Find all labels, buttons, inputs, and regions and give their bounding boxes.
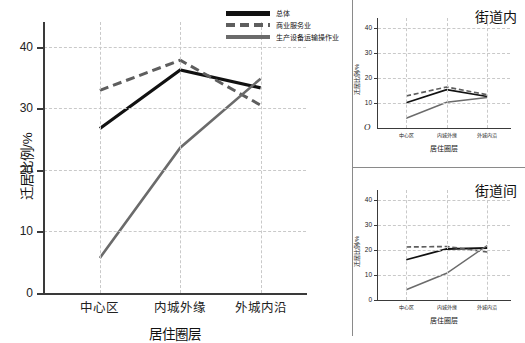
y-axis-tick bbox=[374, 275, 377, 276]
gridline-vertical bbox=[447, 190, 448, 300]
y-axis-tick-label: 20 bbox=[359, 247, 372, 254]
gridline-vertical bbox=[447, 18, 448, 128]
y-axis-tick-label: 30 bbox=[9, 102, 33, 114]
y-axis-tick-label: 20 bbox=[359, 75, 372, 82]
top-right-series-svg bbox=[378, 18, 510, 128]
main-panel-y-axis-line bbox=[43, 22, 45, 293]
y-axis-tick-label: 0 bbox=[9, 287, 33, 299]
y-axis-tick bbox=[37, 47, 43, 49]
y-axis-tick bbox=[37, 108, 43, 110]
y-axis-tick bbox=[374, 200, 377, 201]
x-axis-tick-label: 中心区 bbox=[383, 133, 429, 139]
y-axis-tick bbox=[374, 28, 377, 29]
main-x-axis-title: 居住圈层 bbox=[44, 323, 306, 343]
y-axis-tick-label: 10 bbox=[359, 100, 372, 107]
bottom-right-series-svg bbox=[378, 190, 510, 300]
legend: 总体 商业服务业 生产设备运输操作业 bbox=[226, 8, 346, 44]
legend-swatch-production bbox=[226, 35, 270, 39]
bottom-right-plot-area bbox=[378, 190, 510, 300]
legend-item-production: 生产设备运输操作业 bbox=[226, 32, 346, 42]
gridline-horizontal bbox=[378, 103, 510, 104]
gridline-horizontal bbox=[378, 200, 510, 201]
gridline-horizontal bbox=[378, 28, 510, 29]
y-axis-tick-label: 30 bbox=[359, 222, 372, 229]
gridline-horizontal bbox=[378, 275, 510, 276]
y-axis-tick-label: 40 bbox=[359, 25, 372, 32]
x-axis-tick-label: 外城内沿 bbox=[215, 302, 307, 316]
legend-label-total: 总体 bbox=[276, 10, 290, 17]
legend-item-service: 商业服务业 bbox=[226, 20, 346, 30]
top-right-x-axis-title: 居住圈层 bbox=[378, 143, 510, 153]
y-axis-tick-label: 30 bbox=[359, 50, 372, 57]
top-right-x-axis-line bbox=[377, 128, 511, 129]
legend-label-service: 商业服务业 bbox=[276, 22, 311, 29]
x-axis-tick-label: 内城外缘 bbox=[424, 133, 470, 139]
gridline-horizontal bbox=[44, 47, 306, 48]
x-axis-tick-label: 内城外缘 bbox=[134, 302, 226, 316]
gridline-horizontal bbox=[378, 78, 510, 79]
top-right-chart-panel: 街道内 迁居比例/% O 居住圈层 10203040中心区内城外缘外城内沿 bbox=[350, 0, 525, 168]
gridline-horizontal bbox=[44, 170, 306, 171]
y-axis-tick bbox=[374, 225, 377, 226]
y-axis-tick bbox=[37, 231, 43, 233]
gridline-vertical bbox=[487, 190, 488, 300]
gridline-horizontal bbox=[378, 53, 510, 54]
y-axis-tick bbox=[37, 293, 43, 295]
top-right-origin-marker: O bbox=[364, 122, 371, 132]
y-axis-tick-label: 10 bbox=[359, 272, 372, 279]
bottom-right-chart-panel: 街道间 迁居比例/% 居住圈层 010203040中心区内城外缘外城内沿 bbox=[350, 168, 525, 336]
y-axis-tick bbox=[37, 170, 43, 172]
x-axis-tick-label: 内城外缘 bbox=[424, 305, 470, 311]
gridline-horizontal bbox=[378, 250, 510, 251]
y-axis-tick bbox=[374, 53, 377, 54]
main-chart-panel: 迁居比例/% 居住圈层 总体 商业服务业 生产设备运输操作业 010203040… bbox=[0, 0, 350, 336]
gridline-horizontal bbox=[378, 225, 510, 226]
legend-swatch-total bbox=[226, 11, 270, 16]
top-right-y-axis-line bbox=[377, 18, 378, 128]
main-plot-area bbox=[44, 22, 306, 293]
main-series-svg bbox=[44, 22, 306, 293]
legend-item-total: 总体 bbox=[226, 8, 346, 18]
bottom-right-x-axis-title: 居住圈层 bbox=[378, 315, 510, 325]
y-axis-tick-label: 20 bbox=[9, 164, 33, 176]
gridline-vertical bbox=[406, 18, 407, 128]
gridline-vertical bbox=[100, 22, 101, 293]
y-axis-tick-label: 40 bbox=[359, 197, 372, 204]
main-panel-x-axis-line bbox=[43, 293, 307, 295]
x-axis-tick-label: 中心区 bbox=[383, 305, 429, 311]
y-axis-tick-label: 0 bbox=[359, 297, 372, 304]
gridline-vertical bbox=[261, 22, 262, 293]
gridline-horizontal bbox=[44, 231, 306, 232]
bottom-right-x-axis-line bbox=[377, 300, 511, 301]
y-axis-tick bbox=[374, 300, 377, 301]
y-axis-tick bbox=[374, 78, 377, 79]
panel-divider-horizontal bbox=[352, 167, 525, 168]
bottom-right-y-axis-line bbox=[377, 190, 378, 300]
x-axis-tick-label: 外城内沿 bbox=[464, 305, 510, 311]
gridline-vertical bbox=[406, 190, 407, 300]
y-axis-tick-label: 40 bbox=[9, 41, 33, 53]
y-axis-tick bbox=[374, 103, 377, 104]
y-axis-tick bbox=[374, 250, 377, 251]
legend-label-production: 生产设备运输操作业 bbox=[276, 34, 339, 41]
x-axis-tick-label: 外城内沿 bbox=[464, 133, 510, 139]
gridline-horizontal bbox=[44, 108, 306, 109]
legend-swatch-service bbox=[226, 23, 270, 27]
x-axis-tick-label: 中心区 bbox=[54, 302, 146, 316]
gridline-vertical bbox=[487, 18, 488, 128]
top-right-plot-area bbox=[378, 18, 510, 128]
y-axis-tick-label: 10 bbox=[9, 225, 33, 237]
gridline-vertical bbox=[180, 22, 181, 293]
panel-divider-vertical bbox=[352, 0, 353, 336]
